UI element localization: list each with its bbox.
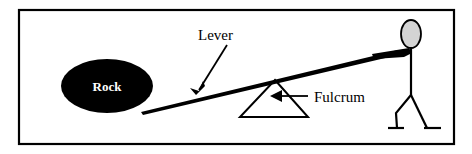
lever-diagram-figure: Rock Lever Fulcrum xyxy=(0,0,472,154)
lever-label: Lever xyxy=(198,27,233,43)
person-head xyxy=(401,20,421,48)
fulcrum-label: Fulcrum xyxy=(314,89,365,105)
rock-label: Rock xyxy=(93,79,123,94)
lever-diagram-canvas: Rock Lever Fulcrum xyxy=(0,0,472,154)
